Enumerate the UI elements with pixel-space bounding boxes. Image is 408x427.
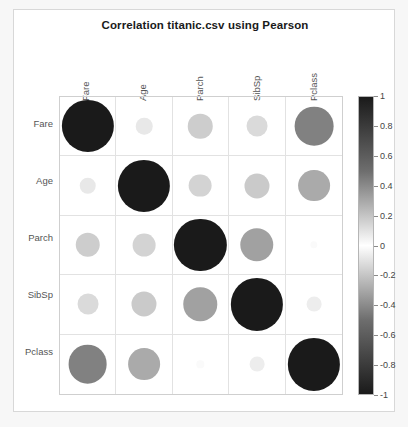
colorbar-tick <box>374 126 378 127</box>
matrix-cell <box>60 156 116 215</box>
colorbar-tick <box>374 216 378 217</box>
colorbar-tick-label: 0.4 <box>380 181 393 191</box>
matrix-cell <box>286 97 342 156</box>
row-label-pclass: Pclass <box>14 346 53 357</box>
colorbar-tick-label: 1 <box>380 91 385 101</box>
correlation-bubble <box>188 114 213 139</box>
matrix-cell <box>116 216 172 275</box>
matrix-cell <box>286 216 342 275</box>
colorbar-gradient <box>358 96 374 395</box>
correlation-bubble <box>68 345 107 384</box>
correlation-bubble <box>184 288 217 321</box>
matrix-cell <box>173 335 229 394</box>
colorbar-tick <box>374 246 378 247</box>
colorbar-tick-label: 0.6 <box>380 151 393 161</box>
matrix-cell <box>173 216 229 275</box>
colorbar-tick-label: -0.4 <box>380 300 396 310</box>
correlation-bubble <box>250 357 265 372</box>
correlation-bubble <box>197 361 204 368</box>
matrix-cell <box>116 97 172 156</box>
correlation-bubble <box>136 118 153 135</box>
correlation-bubble <box>310 241 317 248</box>
correlation-bubble <box>62 100 114 152</box>
correlation-bubble <box>244 173 269 198</box>
matrix-cell <box>116 275 172 334</box>
matrix-cell <box>60 275 116 334</box>
colorbar-tick <box>374 335 378 336</box>
matrix-cell <box>60 97 116 156</box>
matrix-cell <box>173 275 229 334</box>
colorbar-tick-label: -0.6 <box>380 330 396 340</box>
matrix-cell <box>229 216 285 275</box>
colorbar-tick-label: -0.8 <box>380 360 396 370</box>
colorbar-tick-label: 0.8 <box>380 121 393 131</box>
matrix-cell <box>229 335 285 394</box>
matrix-cell <box>60 335 116 394</box>
matrix-cell <box>173 156 229 215</box>
row-label-fare: Fare <box>14 118 53 129</box>
matrix-cell <box>229 275 285 334</box>
correlation-bubble <box>240 228 273 261</box>
correlation-bubble <box>77 294 98 315</box>
matrix-cell <box>60 216 116 275</box>
correlation-matrix-grid <box>59 96 343 395</box>
correlation-bubble <box>189 174 212 197</box>
correlation-bubble <box>132 292 157 317</box>
colorbar-tick <box>374 156 378 157</box>
matrix-cell <box>229 156 285 215</box>
colorbar-tick <box>374 96 378 97</box>
correlation-bubble <box>133 234 156 257</box>
matrix-cell <box>229 97 285 156</box>
colorbar-tick-label: 0 <box>380 241 385 251</box>
matrix-cell <box>286 335 342 394</box>
matrix-cell <box>116 335 172 394</box>
colorbar: 10.80.60.40.20-0.2-0.4-0.6-0.8-1 <box>358 96 374 395</box>
matrix-cell <box>286 156 342 215</box>
correlation-bubble <box>298 170 330 202</box>
matrix-cell <box>286 275 342 334</box>
colorbar-tick <box>374 186 378 187</box>
correlation-bubble <box>128 348 160 380</box>
row-label-parch: Parch <box>14 232 53 243</box>
chart-title: Correlation titanic.csv using Pearson <box>14 19 396 31</box>
correlation-bubble <box>294 107 333 146</box>
colorbar-tick-label: -1 <box>380 390 388 400</box>
correlation-bubble <box>306 297 321 312</box>
colorbar-tick <box>374 395 378 396</box>
row-label-sibsp: SibSp <box>14 289 53 300</box>
correlation-bubble <box>174 219 226 271</box>
colorbar-tick <box>374 305 378 306</box>
correlation-bubble <box>288 338 340 390</box>
correlation-bubble <box>79 177 96 194</box>
plot-panel: Correlation titanic.csv using Pearson Fa… <box>13 9 395 412</box>
colorbar-tick-label: 0.2 <box>380 211 393 221</box>
correlation-bubble <box>75 233 100 258</box>
correlation-figure: Correlation titanic.csv using Pearson Fa… <box>0 0 408 427</box>
correlation-bubble <box>231 278 283 330</box>
correlation-bubble <box>118 159 170 211</box>
matrix-cell <box>173 97 229 156</box>
colorbar-tick <box>374 365 378 366</box>
matrix-cell <box>116 156 172 215</box>
correlation-bubble <box>246 116 267 137</box>
colorbar-tick-label: -0.2 <box>380 270 396 280</box>
colorbar-tick <box>374 275 378 276</box>
row-label-age: Age <box>14 175 53 186</box>
